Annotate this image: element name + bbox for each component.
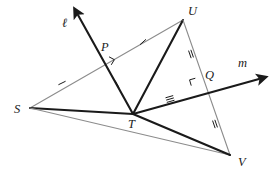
tick-UQ (189, 50, 194, 58)
point-label-t: T (128, 117, 136, 131)
point-label-u: U (188, 4, 198, 18)
tick-QV (213, 120, 218, 128)
segment-s-t (30, 108, 133, 114)
segment-u-v (183, 20, 230, 155)
point-label-s: S (14, 102, 21, 116)
segments-layer (30, 20, 230, 155)
tick-marks-layer (59, 40, 218, 128)
tick-TQ (166, 96, 174, 103)
geometry-canvas: STUVPQℓm (0, 0, 275, 178)
line-label-m: m (238, 56, 247, 70)
point-label-q: Q (205, 68, 214, 82)
labels-layer: STUVPQℓm (14, 4, 247, 169)
right-angle-at-Q (190, 78, 196, 85)
segment-s-v (30, 108, 230, 155)
point-label-v: V (238, 155, 247, 169)
geometry-diagram: STUVPQℓm (0, 0, 275, 178)
ray-m (133, 79, 259, 114)
right-angle-marks-layer (109, 57, 195, 86)
tick-SP (59, 81, 65, 84)
ray-l (78, 15, 133, 114)
point-label-p: P (100, 40, 109, 54)
line-label-l: ℓ (62, 16, 67, 30)
